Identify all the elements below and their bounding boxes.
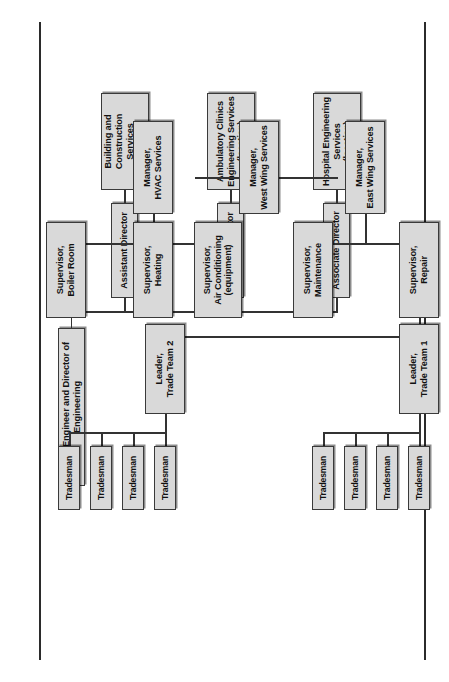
- org-chart-canvas: Chief Engineer and Director of Engineeri…: [0, 0, 449, 682]
- node-manager-hvac[interactable]: Manager, HVAC Services: [133, 121, 173, 214]
- connector-to-tradesman-5: [165, 434, 167, 446]
- connector-to-assoc-director: [336, 297, 338, 313]
- node-supervisor-repair[interactable]: Supervisor, Repair: [399, 222, 439, 318]
- connector-to-tradesman-3: [355, 434, 357, 446]
- connector-asst1-to-ambulatory-svc: [230, 189, 232, 203]
- connector-to-tradesman-7: [101, 434, 103, 446]
- connector-team2-to-tradesmen: [165, 414, 167, 434]
- node-supervisor-boiler-room[interactable]: Supervisor, Boiler Room: [46, 222, 86, 318]
- node-leader-trade-team-2[interactable]: Leader, Trade Team 2: [145, 324, 185, 414]
- node-tradesman-3[interactable]: Tradesman: [344, 446, 366, 510]
- connector-team2-tradesmen-bus: [69, 432, 166, 434]
- node-tradesman-1[interactable]: Tradesman: [408, 446, 430, 510]
- node-tradesman-8[interactable]: Tradesman: [58, 446, 80, 510]
- connector-to-tradesman-4: [323, 434, 325, 446]
- connector-to-tradesman-2: [387, 434, 389, 446]
- connector-to-tradesman-1: [419, 434, 421, 446]
- node-tradesman-6[interactable]: Tradesman: [122, 446, 144, 510]
- connector-assoc-to-hospital-svc: [336, 189, 338, 203]
- node-leader-trade-team-1[interactable]: Leader, Trade Team 1: [399, 324, 439, 414]
- node-supervisor-heating[interactable]: Supervisor, Heating: [133, 222, 173, 318]
- connector-leaders-bus: [165, 336, 420, 338]
- node-tradesman-4[interactable]: Tradesman: [312, 446, 334, 510]
- connector-team1-tradesmen-bus: [323, 432, 420, 434]
- connector-hospital-svc-down-stub: [336, 177, 338, 179]
- node-tradesman-2[interactable]: Tradesman: [376, 446, 398, 510]
- node-tradesman-5[interactable]: Tradesman: [154, 446, 176, 510]
- chart-rotator: Chief Engineer and Director of Engineeri…: [0, 0, 449, 682]
- node-tradesman-7[interactable]: Tradesman: [90, 446, 112, 510]
- connector-to-tradesman-6: [133, 434, 135, 446]
- node-supervisor-maintenance[interactable]: Supervisor, Maintenance: [293, 222, 333, 318]
- connector-asst2-to-building-svc: [124, 189, 126, 203]
- connector-to-assistant-director-2: [124, 297, 126, 313]
- connector-team1-to-tradesmen: [419, 414, 421, 434]
- node-manager-west-wing[interactable]: Manager, West Wing Services: [239, 121, 279, 214]
- connector-east-to-supervisors: [365, 214, 367, 245]
- node-manager-east-wing[interactable]: Manager, East Wing Services: [345, 121, 385, 214]
- connector-to-tradesman-8: [69, 434, 71, 446]
- figure-rule-top: [39, 22, 41, 660]
- node-supervisor-air-conditioning[interactable]: Supervisor, Air Conditioning (equipment): [194, 222, 242, 318]
